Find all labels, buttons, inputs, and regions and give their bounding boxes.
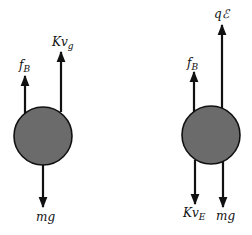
drag-force-label: KvE [182,206,206,222]
left-free-body: fB Kvg mg [14,35,74,224]
right-free-body: qℰ fB KvE mg [182,7,240,223]
gravity-force-label: mg [36,210,55,224]
gravity-force-label: mg [216,209,235,223]
particle-ball [14,107,72,165]
electric-force-label: qℰ [214,7,231,21]
buoyant-force-label: fB [186,56,198,72]
particle-ball [182,106,240,164]
free-body-diagrams: fB Kvg mg qℰ fB KvE mg [0,0,252,235]
drag-force-label: Kvg [51,35,74,51]
buoyant-force-label: fB [18,58,30,74]
